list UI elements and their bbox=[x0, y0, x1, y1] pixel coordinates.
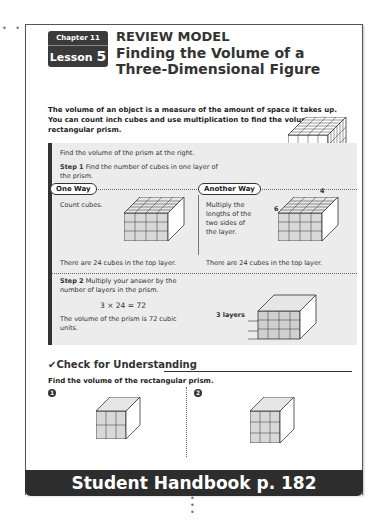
heading-rule bbox=[164, 371, 352, 372]
divider bbox=[52, 273, 357, 274]
another-way-text: Multiply the lengths of the two sides of… bbox=[206, 201, 256, 237]
review-model-heading: REVIEW MODEL bbox=[116, 29, 229, 44]
handbook-page: Chapter 11 Lesson 5 REVIEW MODEL Finding… bbox=[25, 24, 363, 495]
one-way-text: Count cubes. bbox=[60, 201, 103, 210]
check-instruction: Find the volume of the rectangular prism… bbox=[48, 377, 214, 385]
chapter-label: Chapter 11 bbox=[48, 31, 108, 46]
problem-2-prism[interactable] bbox=[250, 397, 306, 443]
another-way-result: There are 24 cubes in the top layer. bbox=[206, 259, 322, 268]
problem-number-1: 1 bbox=[48, 389, 56, 397]
handbook-banner: Student Handbook p. 182 bbox=[25, 470, 363, 496]
dimension-top: 4 bbox=[320, 187, 325, 196]
chapter-lesson-badge: Chapter 11 Lesson 5 bbox=[48, 31, 108, 67]
check-heading: ✔Check for Understanding bbox=[48, 359, 197, 370]
prism-figure-layers bbox=[248, 291, 318, 341]
conclusion: The volume of the prism is 72 cubic unit… bbox=[60, 315, 180, 333]
prism-figure-one-way bbox=[124, 197, 190, 241]
one-way-result: There are 24 cubes in the top layer. bbox=[60, 259, 176, 268]
equation: 3 × 24 = 72 bbox=[100, 301, 146, 310]
problem-divider bbox=[186, 387, 187, 457]
step1: Step 1 Find the number of cubes in one l… bbox=[60, 163, 220, 181]
task-text: Find the volume of the prism at the righ… bbox=[60, 149, 194, 158]
worked-example-panel: Find the volume of the prism at the righ… bbox=[48, 143, 357, 345]
step2: Step 2 Multiply your answer by the numbe… bbox=[60, 277, 200, 295]
layers-label: 3 layers bbox=[216, 311, 245, 320]
problem-number-2: 2 bbox=[194, 389, 202, 397]
lesson-label: Lesson 5 bbox=[48, 48, 108, 64]
one-way-label: One Way bbox=[50, 183, 97, 195]
problem-1-prism[interactable] bbox=[96, 397, 152, 439]
column-divider bbox=[198, 195, 199, 255]
lesson-title: Finding the Volume of a Three-Dimensiona… bbox=[116, 45, 356, 77]
leader-dots-bottom: ••• bbox=[190, 495, 193, 516]
prism-figure-another-way bbox=[278, 197, 344, 241]
another-way-label: Another Way bbox=[198, 183, 261, 195]
